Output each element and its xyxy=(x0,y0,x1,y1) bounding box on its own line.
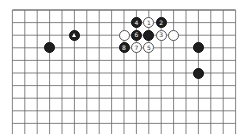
black-stone: 8 xyxy=(119,42,130,53)
move-number-label: 8 xyxy=(122,45,126,51)
black-stone xyxy=(193,68,204,79)
black-stone xyxy=(69,30,80,41)
board-grid xyxy=(0,0,245,138)
move-number-label: 6 xyxy=(134,32,138,38)
white-stone: 3 xyxy=(156,30,167,41)
black-stone: 6 xyxy=(131,30,142,41)
move-number-label: 2 xyxy=(159,20,163,26)
white-stone xyxy=(119,30,130,41)
move-number-label: 4 xyxy=(134,20,138,26)
move-number-label: 3 xyxy=(159,32,163,38)
go-board: 41263875 xyxy=(0,0,245,138)
black-stone: 2 xyxy=(156,17,167,28)
move-number-label: 7 xyxy=(134,45,138,51)
black-stone xyxy=(143,30,154,41)
white-stone xyxy=(168,30,179,41)
triangle-marker-icon xyxy=(72,33,76,37)
black-stone: 4 xyxy=(131,17,142,28)
move-number-label: 5 xyxy=(147,45,151,51)
move-number-label: 1 xyxy=(147,20,151,26)
